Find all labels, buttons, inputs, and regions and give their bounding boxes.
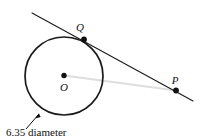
figure-canvas: O Q P 6.35 diameter [0, 0, 200, 139]
point-q-dot [81, 37, 87, 43]
point-o-label: O [60, 81, 68, 93]
point-q-label: Q [76, 21, 84, 33]
dimension-leader-arrowhead [35, 113, 40, 118]
point-o-dot [61, 73, 66, 78]
geometry-figure: O Q P 6.35 diameter [0, 0, 200, 139]
point-p-label: P [171, 74, 179, 86]
tangent-line [32, 13, 193, 101]
diameter-dimension-label: 6.35 diameter [6, 126, 67, 138]
point-p-dot [173, 88, 179, 94]
